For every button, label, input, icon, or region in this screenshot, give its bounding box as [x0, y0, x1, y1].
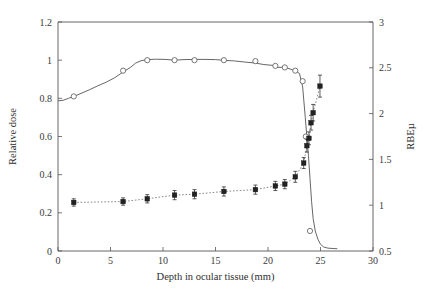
x-tick-label: 20: [263, 255, 273, 266]
dose-marker: [307, 228, 312, 233]
y-tick-label: 0.6: [40, 131, 53, 142]
x-tick-label: 30: [368, 255, 378, 266]
x-tick-label: 15: [211, 255, 221, 266]
rbe-marker: [283, 182, 288, 187]
dose-marker: [221, 58, 226, 63]
x-tick-label: 25: [316, 255, 326, 266]
rbe-marker: [318, 84, 323, 89]
depth-dose-rbe-plot: 051015202530 00.20.40.60.811.2 0.511.522…: [0, 0, 429, 291]
dose-marker: [192, 58, 197, 63]
dose-marker: [282, 65, 287, 70]
y-axis-left-label: Relative dose: [7, 108, 18, 165]
rbe-marker: [293, 175, 298, 180]
y2-tick-label: 3: [379, 17, 384, 28]
rbe-marker: [121, 199, 126, 204]
rbe-marker: [301, 161, 306, 166]
y-tick-label: 1.2: [40, 17, 53, 28]
x-tick-label: 10: [158, 255, 168, 266]
dose-marker: [121, 68, 126, 73]
rbe-marker: [253, 187, 258, 192]
dose-marker: [273, 63, 278, 68]
x-tick-label: 0: [56, 255, 61, 266]
x-tick-label: 5: [108, 255, 113, 266]
dose-marker: [172, 58, 177, 63]
y-tick-label: 0.8: [40, 93, 53, 104]
chart-figure: 051015202530 00.20.40.60.811.2 0.511.522…: [0, 0, 429, 291]
chart-background: [0, 0, 429, 291]
y2-tick-label: 1: [379, 200, 384, 211]
x-axis-label: Depth in ocular tissue (mm): [157, 271, 275, 283]
y2-tick-label: 0.5: [379, 246, 392, 257]
y2-tick-label: 2: [379, 108, 384, 119]
y-tick-label: 0: [47, 246, 52, 257]
y-tick-label: 0.4: [40, 169, 53, 180]
dose-marker: [300, 79, 305, 84]
rbe-marker: [145, 196, 150, 201]
dose-marker: [145, 58, 150, 63]
dose-marker: [71, 94, 76, 99]
y-axis-right-label: RBEµ: [405, 123, 416, 149]
y2-tick-label: 1.5: [379, 154, 392, 165]
rbe-marker: [273, 184, 278, 189]
dose-marker: [293, 68, 298, 73]
rbe-marker: [71, 200, 76, 205]
y-tick-label: 0.2: [40, 207, 53, 218]
y2-tick-label: 2.5: [379, 62, 392, 73]
rbe-marker: [305, 143, 310, 148]
rbe-marker: [192, 192, 197, 197]
rbe-marker: [311, 110, 316, 115]
y-tick-label: 1: [47, 55, 52, 66]
dose-marker: [253, 59, 258, 64]
rbe-marker: [172, 193, 177, 198]
rbe-marker: [222, 189, 227, 194]
rbe-marker: [307, 136, 312, 141]
